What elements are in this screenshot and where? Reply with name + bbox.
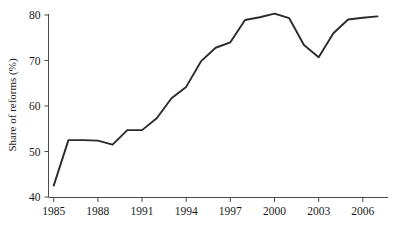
x-tick-label: 2006	[351, 205, 374, 217]
y-tick-label: 80	[29, 9, 41, 21]
y-tick-label-group: 4050607080	[29, 9, 41, 203]
y-tick-group	[45, 15, 49, 197]
x-tick-label: 1994	[175, 205, 198, 217]
y-tick-label: 70	[29, 55, 41, 67]
y-tick-label: 60	[29, 100, 41, 112]
y-tick-label: 50	[29, 146, 41, 158]
y-axis-title: Share of reforms (%)	[6, 58, 19, 151]
x-tick-label: 2003	[307, 205, 330, 217]
x-tick-label: 2000	[263, 205, 286, 217]
x-tick-group	[54, 198, 363, 203]
x-tick-label-group: 19851988199119941997200020032006	[42, 205, 374, 217]
x-tick-label: 1985	[42, 205, 65, 217]
x-tick-label: 1988	[86, 205, 109, 217]
line-chart: 4050607080 19851988199119941997200020032…	[0, 0, 396, 246]
x-tick-label: 1991	[131, 205, 154, 217]
x-tick-label: 1997	[219, 205, 242, 217]
chart-canvas: 4050607080 19851988199119941997200020032…	[0, 0, 396, 246]
y-tick-label: 40	[29, 191, 41, 203]
data-series-line	[54, 14, 378, 186]
